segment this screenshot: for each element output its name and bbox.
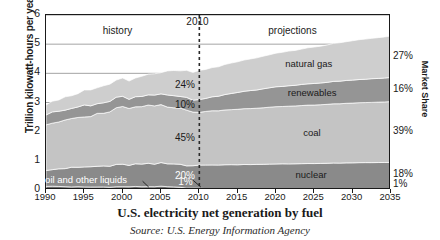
- y-tick-label: 3: [18, 96, 40, 106]
- plot-area: [45, 14, 390, 189]
- chart-figure: Trillion kilowatt-hours per year Market …: [0, 0, 440, 240]
- x-tick-mark: [160, 189, 161, 193]
- band-label-natural-gas: natural gas: [285, 58, 332, 69]
- band-label-nuclear: nuclear: [295, 169, 326, 180]
- band-label-oil-and-other-liquids: oil and other liquids: [45, 174, 127, 185]
- x-tick-mark: [83, 189, 84, 193]
- y-tick-label: 5: [18, 37, 40, 47]
- stacked-area-svg: [46, 15, 390, 189]
- pct-2010-coal: 45%: [175, 132, 195, 143]
- band-label-renewables: renewables: [288, 87, 337, 98]
- y-tick-label: 6: [18, 8, 40, 18]
- x-tick-mark: [45, 189, 46, 193]
- y-tick-label: 4: [18, 66, 40, 76]
- right-axis-title: Market Share: [420, 34, 430, 144]
- x-tick-mark: [198, 189, 199, 193]
- pct-2010-oil-and-other-liquids: 1%: [178, 176, 192, 187]
- market-share-coal: 39%: [393, 125, 413, 136]
- pct-2010-renewables: 10%: [175, 99, 195, 110]
- chart-caption: U.S. electricity net generation by fuel: [0, 205, 440, 221]
- market-share-natural-gas: 27%: [393, 50, 413, 61]
- market-share-renewables: 16%: [393, 83, 413, 94]
- y-tick-label: 2: [18, 125, 40, 135]
- x-tick-mark: [390, 189, 391, 193]
- chart-source: Source: U.S. Energy Information Agency: [0, 224, 440, 236]
- pct-2010-natural-gas: 24%: [175, 79, 195, 90]
- y-tick-label: 1: [18, 154, 40, 164]
- x-tick-mark: [352, 189, 353, 193]
- band-label-coal: coal: [303, 127, 320, 138]
- x-tick-mark: [275, 189, 276, 193]
- x-tick-mark: [313, 189, 314, 193]
- x-tick-mark: [122, 189, 123, 193]
- era-label-projections: projections: [268, 25, 316, 36]
- x-tick-mark: [237, 189, 238, 193]
- divider-year-label: 2010: [186, 16, 208, 27]
- era-label-history: history: [103, 25, 132, 36]
- market-share-oil-and-other-liquids: 1%: [393, 178, 407, 189]
